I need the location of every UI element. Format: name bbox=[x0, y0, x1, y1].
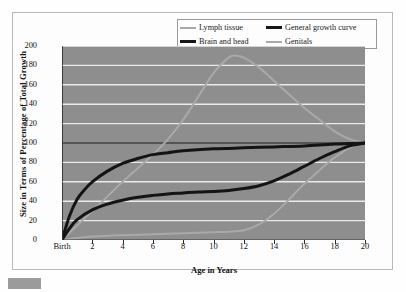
x-axis-tickmark bbox=[335, 240, 336, 244]
plot-area bbox=[62, 46, 365, 240]
x-axis-tickmark bbox=[304, 240, 305, 244]
y-axis-tick-label: 200 bbox=[0, 42, 37, 50]
y-axis-tick-label: 140 bbox=[0, 100, 37, 108]
x-axis-tickmark bbox=[123, 240, 124, 244]
legend-label: Genitals bbox=[285, 38, 312, 46]
y-axis-tick-label: 60 bbox=[0, 178, 37, 186]
y-axis-tick-label: 180 bbox=[0, 61, 37, 69]
legend-item-genitals[interactable]: Genitals bbox=[266, 38, 378, 46]
x-axis-tickmark bbox=[365, 240, 366, 244]
x-axis-tickmark bbox=[274, 240, 275, 244]
y-axis-tick-label: 0 bbox=[0, 236, 37, 244]
plot-svg bbox=[62, 46, 365, 240]
scan-artifact-block bbox=[8, 278, 41, 289]
y-axis-tick-label: 20 bbox=[0, 217, 37, 225]
legend-swatch-icon bbox=[180, 40, 196, 43]
y-axis-tick-label: 160 bbox=[0, 81, 37, 89]
y-axis-tick-label: 120 bbox=[0, 120, 37, 128]
figure: Lymph tissue General growth curve Brain … bbox=[0, 0, 406, 292]
legend-label: General growth curve bbox=[285, 24, 356, 32]
x-axis-tickmark bbox=[183, 240, 184, 244]
legend-item-lymph-tissue[interactable]: Lymph tissue bbox=[180, 24, 266, 32]
legend-label: Lymph tissue bbox=[199, 24, 243, 32]
legend-swatch-icon bbox=[266, 41, 282, 43]
y-axis-tick-label: 40 bbox=[0, 197, 37, 205]
legend-label: Brain and head bbox=[199, 38, 249, 46]
x-axis-tickmark bbox=[153, 240, 154, 244]
legend-swatch-icon bbox=[266, 26, 282, 29]
legend-item-brain-and-head[interactable]: Brain and head bbox=[180, 38, 266, 46]
y-axis-tick-label: 80 bbox=[0, 158, 37, 166]
x-axis-tickmark bbox=[92, 240, 93, 244]
legend-item-general-growth-curve[interactable]: General growth curve bbox=[266, 24, 378, 32]
x-axis-tickmark bbox=[214, 240, 215, 244]
chart-legend: Lymph tissue General growth curve Brain … bbox=[177, 19, 377, 49]
x-axis-title: Age in Years bbox=[62, 265, 366, 275]
series-line-general-growth-curve bbox=[62, 143, 365, 240]
y-axis-tick-label: 100 bbox=[0, 139, 37, 147]
x-axis-tick-label: 20 bbox=[347, 243, 383, 251]
legend-swatch-icon bbox=[180, 27, 196, 29]
x-axis-tickmark bbox=[244, 240, 245, 244]
